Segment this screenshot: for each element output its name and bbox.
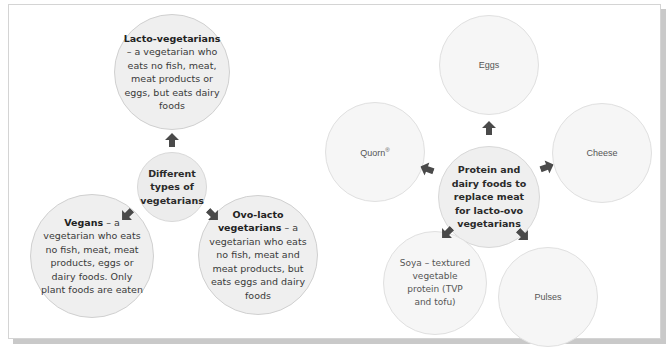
node-label: Cheese [580,148,623,158]
arrow-up-icon [165,133,179,147]
node-label: Pulses [528,292,567,302]
node-definition: – a vegetarian who eats no fish, meat an… [209,222,306,301]
node-term: Ovo-lacto vegetarians [218,209,284,234]
node-definition: – a vegetarian who eats no fish, meat, m… [41,217,143,296]
node-label: Eggs [473,60,506,70]
node-label: Quorn [360,148,385,158]
node-pulses: Pulses [498,247,598,347]
node-label: Soya – textured vegetable protein (TVP a… [384,257,486,309]
hub-different-types: Different types of vegetarians [137,152,207,222]
node-definition: – a vegetarian who eats no fish, meat, m… [124,46,219,111]
node-soya: Soya – textured vegetable protein (TVP a… [383,231,487,335]
node-lacto-vegetarians: Lacto-vegetarians – a vegetarian who eat… [114,14,230,130]
node-term: Lacto-vegetarians [124,33,221,44]
arrow-up-icon [482,121,496,135]
node-cheese: Cheese [552,103,652,203]
node-term: Vegans [64,217,103,228]
node-quorn: Quorn® [325,102,425,202]
node-eggs: Eggs [439,15,539,115]
hub-label: Different types of vegetarians [136,167,208,208]
registered-mark: ® [385,147,389,153]
hub-label: Protein and dairy foods to replace meat … [439,163,539,231]
